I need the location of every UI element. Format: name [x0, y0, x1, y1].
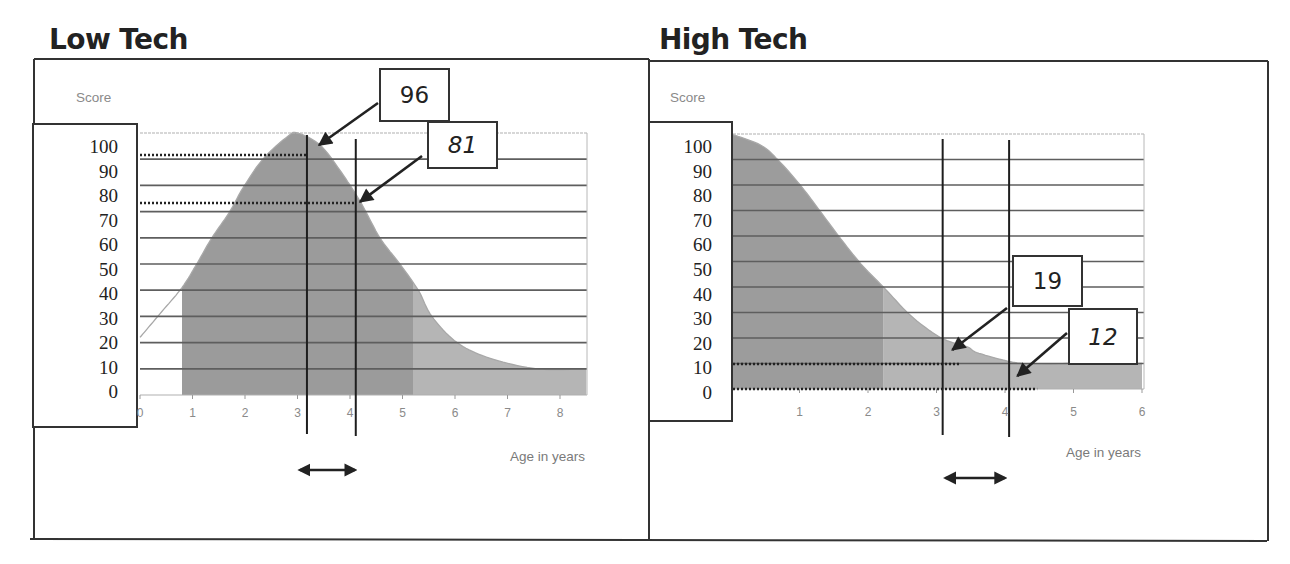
- y-axis-title: Score: [76, 90, 111, 106]
- value-callout-box: 81: [427, 121, 498, 169]
- x-tick-label: 2: [242, 406, 249, 420]
- x-tick-label: 7: [504, 406, 511, 420]
- x-axis-title: Age in years: [1066, 445, 1141, 461]
- x-tick-label: 2: [865, 405, 872, 419]
- y-tick-label: 30: [99, 309, 118, 329]
- y-tick-label: 70: [99, 211, 118, 231]
- y-tick-label: 20: [99, 333, 118, 353]
- value-callout-box: 96: [379, 68, 450, 122]
- y-tick-label: 20: [693, 334, 712, 354]
- x-tick-label: 4: [347, 406, 354, 420]
- y-axis-title: Score: [670, 90, 705, 106]
- x-tick-label: 0: [137, 406, 144, 420]
- y-tick-label: 70: [693, 211, 712, 231]
- y-tick-label: 90: [99, 162, 118, 182]
- y-tick-label: 40: [693, 285, 712, 305]
- y-tick-label: 80: [99, 186, 118, 206]
- callout-arrow-icon: [319, 103, 378, 145]
- y-tick-label: 10: [99, 358, 118, 378]
- high-tech-title: High Tech: [659, 26, 807, 54]
- y-tick-label: 60: [693, 235, 712, 255]
- x-tick-label: 1: [796, 405, 803, 419]
- y-tick-label: 50: [693, 260, 712, 280]
- value-callout-box: 19: [1012, 255, 1083, 307]
- y-axis-label-box: 1009080706050403020100: [32, 123, 138, 428]
- low-tech-title: Low Tech: [49, 26, 188, 54]
- y-tick-label: 10: [693, 358, 712, 378]
- x-axis-title: Age in years: [510, 449, 585, 465]
- y-tick-label: 60: [99, 235, 118, 255]
- x-tick-label: 8: [557, 406, 564, 420]
- callout-arrow-icon: [360, 156, 422, 202]
- charts-canvas: [0, 0, 1290, 564]
- y-tick-label: 0: [703, 383, 713, 403]
- x-tick-label: 6: [1139, 405, 1146, 419]
- y-tick-label: 30: [693, 309, 712, 329]
- x-tick-label: 5: [1070, 405, 1077, 419]
- low-tech-chart: [140, 103, 587, 470]
- area-fill-light: [413, 282, 586, 395]
- y-axis-label-box: 1009080706050403020100: [648, 121, 733, 422]
- y-tick-label: 100: [90, 137, 119, 157]
- y-tick-label: 40: [99, 284, 118, 304]
- x-tick-label: 1: [189, 406, 196, 420]
- frame-bottom: [30, 539, 1267, 541]
- x-tick-label: 4: [1002, 405, 1009, 419]
- x-tick-label: 5: [399, 406, 406, 420]
- y-tick-label: 90: [693, 162, 712, 182]
- figure-stage: Low TechScore100908070605040302010001234…: [0, 0, 1290, 564]
- callout-arrow-icon: [952, 308, 1007, 350]
- y-tick-label: 50: [99, 260, 118, 280]
- y-tick-label: 0: [109, 382, 119, 402]
- y-tick-label: 80: [693, 186, 712, 206]
- value-callout-box: 12: [1068, 308, 1138, 365]
- x-tick-label: 6: [452, 406, 459, 420]
- y-tick-label: 100: [684, 137, 713, 157]
- x-tick-label: 3: [933, 405, 940, 419]
- x-tick-label: 3: [294, 406, 301, 420]
